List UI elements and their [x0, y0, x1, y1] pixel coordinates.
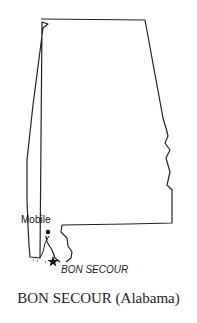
bon-secour-star-icon [47, 256, 58, 267]
map-caption: BON SECOUR (Alabama) [0, 290, 197, 307]
bon-secour-label: BON SECOUR [61, 264, 128, 275]
state-boundary [27, 19, 172, 262]
mobile-label: Mobile [21, 214, 50, 225]
coast-dots [33, 260, 46, 262]
mobile-bay-shore [40, 236, 49, 258]
mobile-city-dot [46, 230, 50, 234]
